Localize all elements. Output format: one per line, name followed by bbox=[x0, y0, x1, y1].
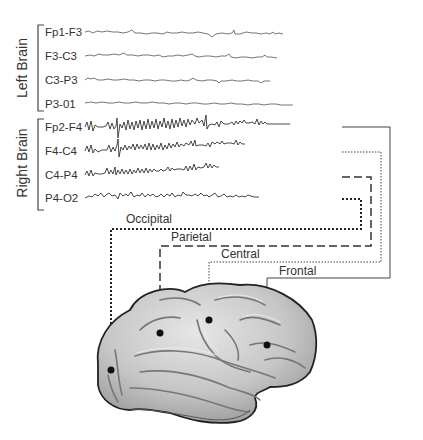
channel-label: F4-C4 bbox=[45, 145, 77, 157]
parietal-label: Parietal bbox=[171, 230, 212, 244]
occipital-label: Occipital bbox=[126, 212, 172, 226]
diagram-canvas bbox=[0, 0, 423, 440]
trace-f4-c4 bbox=[85, 139, 245, 157]
electrode-parietal bbox=[157, 330, 164, 337]
left-brain-bracket bbox=[38, 25, 44, 111]
trace-c4-p4 bbox=[85, 163, 219, 176]
brain-illustration bbox=[98, 283, 317, 423]
trace-fp2-f4 bbox=[85, 115, 290, 138]
channel-label: P3-01 bbox=[45, 98, 76, 110]
electrode-central bbox=[206, 317, 213, 324]
channel-label: C3-P3 bbox=[45, 74, 78, 86]
trace-f3-c3 bbox=[85, 53, 277, 58]
channel-label: Fp1-F3 bbox=[45, 26, 82, 38]
right-brain-traces bbox=[85, 115, 290, 199]
trace-fp1-f3 bbox=[85, 30, 283, 37]
trace-p4-o2 bbox=[85, 192, 259, 199]
central-label: Central bbox=[221, 247, 260, 261]
left-brain-traces bbox=[85, 30, 293, 105]
electrode-frontal bbox=[264, 342, 271, 349]
channel-label: F3-C3 bbox=[45, 50, 77, 62]
channel-label: C4-P4 bbox=[45, 169, 78, 181]
electrode-occipital bbox=[108, 367, 115, 374]
frontal-label: Frontal bbox=[279, 264, 316, 278]
channel-label: P4-O2 bbox=[45, 192, 78, 204]
right-brain-label: Right Brain bbox=[14, 128, 30, 198]
left-brain-label: Left Brain bbox=[14, 38, 30, 98]
right-brain-bracket bbox=[38, 119, 44, 210]
trace-c3-p3 bbox=[85, 78, 270, 83]
channel-label: Fp2-F4 bbox=[45, 121, 82, 133]
trace-p3-01 bbox=[85, 102, 293, 105]
